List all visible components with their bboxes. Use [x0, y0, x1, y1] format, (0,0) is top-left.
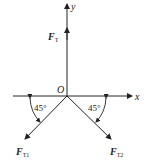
origin-label: O [57, 84, 64, 95]
force-ft-label: FT [47, 31, 59, 43]
x-axis-label: x [134, 91, 140, 102]
force-ft1-label: FT1 [15, 146, 29, 158]
force-diagram: x y FT O FT1 45° FT2 45° [0, 0, 146, 165]
angle-label-left: 45° [34, 103, 47, 113]
y-axis-label: y [70, 1, 76, 12]
angle-label-right: 45° [88, 103, 101, 113]
force-ft2-label: FT2 [109, 146, 123, 158]
